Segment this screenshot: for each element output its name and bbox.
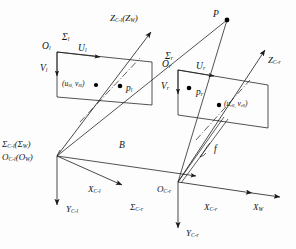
- world-x-axis-label: XW: [253, 203, 263, 213]
- left-z-axis-line: [57, 32, 151, 156]
- left-camera-origin-label: Ol: [42, 42, 51, 52]
- left-image-point-label: pl: [126, 84, 132, 94]
- right-principal-point-marker: [217, 103, 221, 107]
- right-x-axis-line: [178, 182, 252, 193]
- scene-point-marker: [225, 18, 230, 23]
- stereo-vision-diagram: P Ol Σl Ul Vl (ul0, vl0) pl Σr Or Ur Vr …: [0, 0, 296, 249]
- baseline-label: B: [119, 141, 125, 151]
- left-camera-frame-world-label: ΣC-l(ΣW): [2, 140, 31, 150]
- right-camera-origin-label: Or: [162, 60, 171, 70]
- left-z-axis-label: ZC-l(ZW): [110, 14, 138, 24]
- focal-length-rays: [178, 117, 228, 183]
- left-x-axis-label: XC-l: [88, 185, 101, 195]
- right-z-axis-line: [178, 50, 265, 182]
- left-v-axis-label: Vl: [40, 64, 47, 74]
- focal-length-brace: [200, 143, 210, 157]
- right-camera-origin-label-bottom: OC-r: [157, 185, 171, 195]
- right-v-axis-label: Vr: [161, 82, 169, 92]
- left-image-plane: [57, 52, 152, 105]
- right-principal-point-label: (ur0, vr0): [224, 100, 247, 108]
- right-z-axis-label: ZC-r: [268, 56, 281, 66]
- right-image-point-marker: [187, 86, 192, 91]
- right-projection-ray: [178, 20, 227, 182]
- left-image-point-marker: [118, 84, 123, 89]
- baseline-segment: [57, 150, 196, 176]
- optical-axis-right-dashed: [196, 80, 250, 140]
- world-x-axis: [252, 193, 280, 197]
- focal-length-label: f: [214, 145, 217, 155]
- left-camera-origin-world-label: OC-l(OW): [2, 153, 33, 163]
- right-u-axis-label: Ur: [196, 62, 205, 72]
- scene-point-label: P: [213, 10, 219, 20]
- right-y-axis-label: YC-r: [186, 229, 199, 239]
- diagram-canvas: [0, 0, 296, 249]
- left-y-axis-label: YC-l: [66, 205, 78, 215]
- right-camera-frame-label: ΣC-r: [130, 203, 143, 213]
- left-u-axis-label: Ul: [78, 44, 87, 54]
- left-image-frame-label: Σl: [62, 33, 69, 43]
- left-principal-point-label: (ul0, vl0): [62, 80, 84, 88]
- left-principal-point-marker: [94, 83, 98, 87]
- right-image-point-label: pr: [196, 88, 203, 98]
- right-image-plane: [178, 70, 268, 128]
- right-x-axis-label: XC-r: [204, 203, 217, 213]
